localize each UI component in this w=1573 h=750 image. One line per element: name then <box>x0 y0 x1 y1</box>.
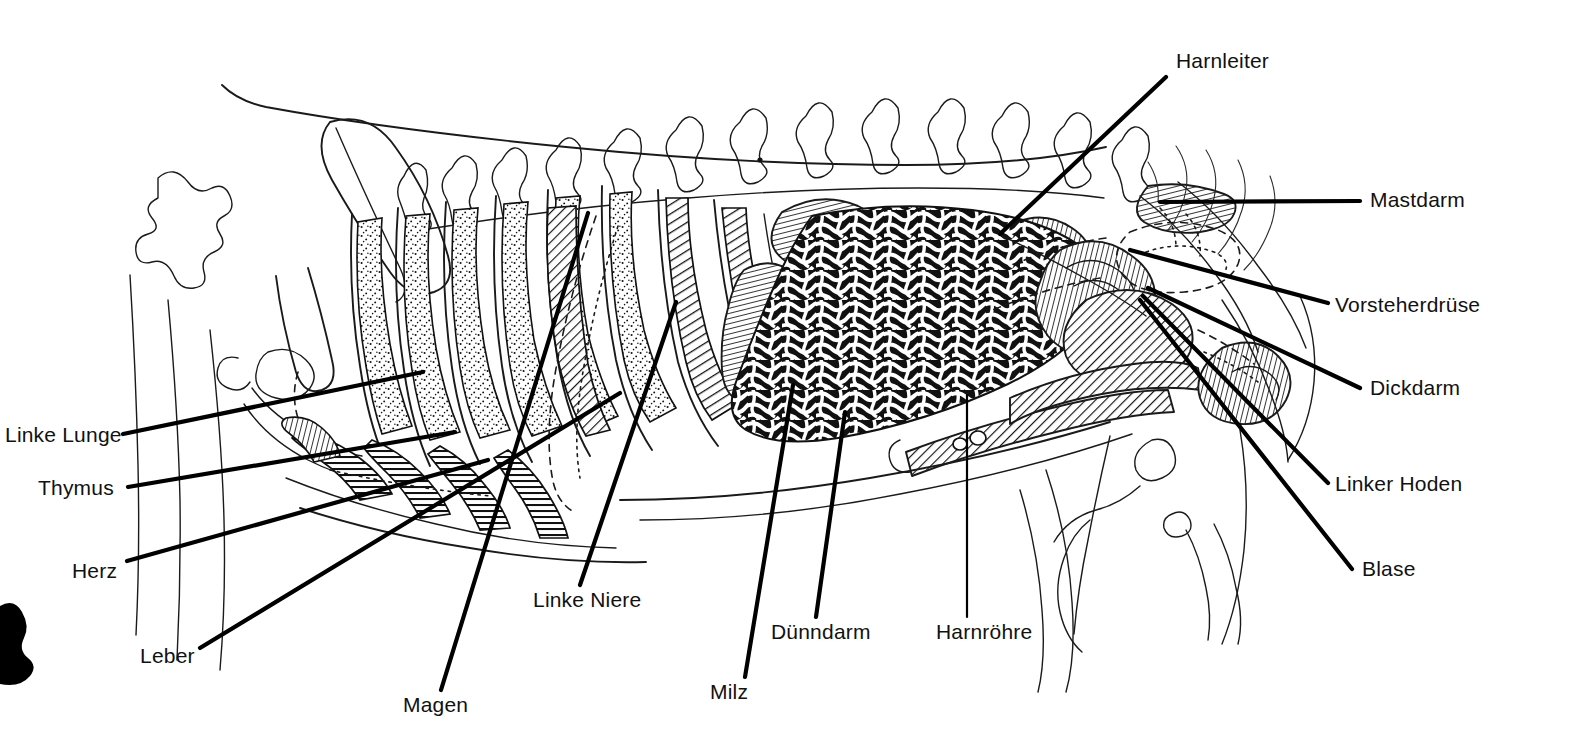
label-milz: Milz <box>710 680 748 703</box>
label-leber: Leber <box>140 644 195 667</box>
label-linker-hoden: Linker Hoden <box>1335 472 1462 495</box>
label-dickdarm: Dickdarm <box>1370 376 1460 399</box>
label-harnroehre: Harnröhre <box>936 620 1032 643</box>
label-linke-niere: Linke Niere <box>533 588 641 611</box>
label-vorsteherdruese: Vorsteherdrüse <box>1335 293 1480 316</box>
leader-mastdarm <box>1160 201 1360 202</box>
label-mastdarm: Mastdarm <box>1370 188 1465 211</box>
label-herz: Herz <box>72 559 117 582</box>
label-thymus: Thymus <box>38 476 114 499</box>
label-duenndarm: Dünndarm <box>771 620 871 643</box>
label-harnleiter: Harnleiter <box>1176 49 1269 72</box>
label-linke-lunge: Linke Lunge <box>5 423 122 446</box>
label-blase: Blase <box>1362 557 1416 580</box>
anatomical-figure: Harnleiter Mastdarm Vorsteherdrüse Dickd… <box>0 0 1573 750</box>
label-magen: Magen <box>403 693 468 716</box>
